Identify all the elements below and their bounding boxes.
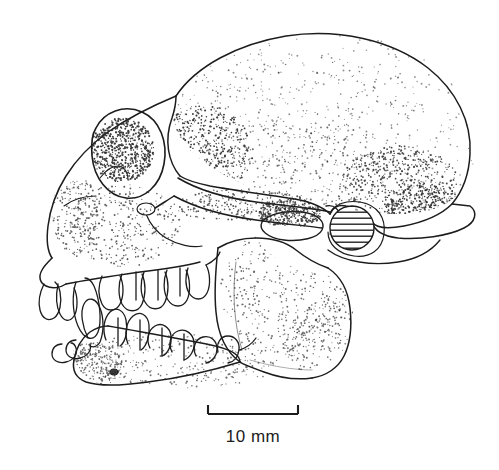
scale-bar-label: 10 mm [226, 427, 280, 446]
skull-figure: 10 mm [0, 0, 499, 470]
skull-illustration: 10 mm [0, 0, 499, 470]
figure-background [0, 0, 499, 470]
external-auditory-meatus [330, 206, 374, 250]
